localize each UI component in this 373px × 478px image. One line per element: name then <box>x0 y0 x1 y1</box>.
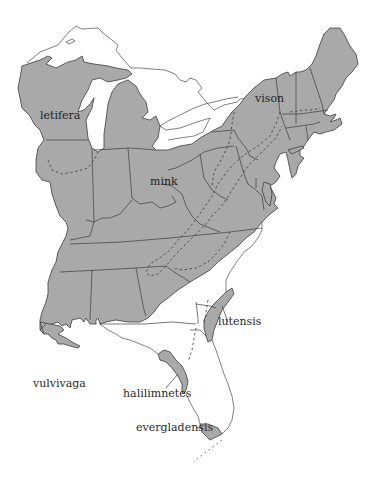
label-letifera: letifera <box>40 110 80 121</box>
label-vison: vison <box>255 93 284 104</box>
eastern-us-mink-range-map <box>0 0 373 478</box>
florida-keys-dotted <box>194 440 222 462</box>
label-evergladensis: evergladensis <box>136 422 213 433</box>
label-mink: mink <box>150 176 178 187</box>
halilimnetes-leader <box>166 374 178 388</box>
label-lutensis: lutensis <box>218 316 261 327</box>
florida-peninsula-outline <box>186 330 234 434</box>
mainland-range-area <box>18 28 358 334</box>
louisiana-delta-range <box>40 322 80 348</box>
label-vulvivaga: vulvivaga <box>33 378 86 389</box>
label-halilimnetes: halilimnetes <box>123 388 191 399</box>
gulf-coast-outline <box>100 324 158 354</box>
isle-royale <box>66 39 75 44</box>
